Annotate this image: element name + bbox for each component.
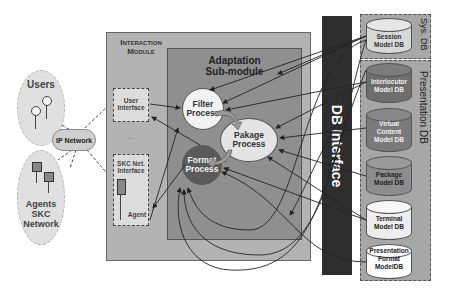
label-line: Model DB [366, 223, 412, 231]
label-line: ModelDB [366, 263, 412, 271]
skc-interface-box: SKC Net. Interface Agent [113, 154, 149, 226]
label-line: Model DB [366, 86, 412, 94]
ip-network-cloud: IP Network [52, 129, 96, 151]
label-line: Process [186, 109, 219, 118]
label-line: Virtual [366, 120, 412, 128]
agent-node-stem [48, 181, 49, 193]
cylinder-label: Presentation Format ModelDB [366, 247, 412, 271]
cylinder-label: Terminal Model DB [366, 215, 412, 231]
agent-node-icon [44, 172, 54, 182]
format-process: Format Process [182, 145, 222, 185]
label-line: Interface [114, 104, 148, 111]
agent-node-stem [36, 171, 37, 183]
user-interface-label: User Interface [114, 97, 148, 111]
title-line: Adaptation [168, 55, 301, 66]
label-line: Interlocutor [366, 78, 412, 86]
user-node-icon [42, 96, 52, 106]
title-line: Module [111, 48, 171, 57]
cylinder-label: Session Model DB [366, 33, 412, 49]
user-node-stem [35, 115, 36, 129]
user-node-stem [46, 105, 47, 119]
filter-process: Filter Process [182, 88, 224, 130]
label-line: Session [366, 33, 412, 41]
virtual-content-model-db: Virtual Content Model DB [366, 108, 412, 152]
cylinder-label: Interlocutor Model DB [366, 78, 412, 94]
users-label: Users [18, 79, 64, 90]
terminal-model-db: Terminal Model DB [366, 200, 412, 240]
label-line: User [114, 97, 148, 104]
agent-icon [117, 179, 126, 195]
presentation-db-label: Presentation DB [418, 71, 429, 144]
cylinder-label: Package Model DB [366, 171, 412, 187]
interlocutor-model-db: Interlocutor Model DB [366, 63, 412, 103]
db-interface-label: DB Interface [329, 104, 345, 186]
label-line: Model DB [366, 41, 412, 49]
adaptation-title: Adaptation Sub-module [168, 55, 301, 77]
label-line: Model DB [366, 136, 412, 144]
session-model-db: Session Model DB [366, 18, 412, 54]
agents-label: Agents SKC Network [18, 200, 64, 230]
package-process: Pakage Process [220, 118, 278, 162]
label-line: SKC Net. [114, 160, 148, 167]
package-model-db: Package Model DB [366, 156, 412, 196]
user-node-icon [31, 106, 41, 116]
label-line: Format [366, 255, 412, 263]
interaction-module-title: Interaction Module [111, 39, 171, 57]
ellipsis: ... [113, 133, 149, 140]
label-line: Interface [114, 167, 148, 174]
label-line: Content [366, 128, 412, 136]
ip-network-label: IP Network [56, 137, 92, 144]
presentation-format-model-db: Presentation Format ModelDB [366, 244, 412, 279]
db-interface: DB Interface [322, 16, 352, 275]
cylinder-top [366, 156, 412, 170]
agents-label-line: Network [18, 220, 64, 230]
label-line: Terminal [366, 215, 412, 223]
cylinder-top [366, 18, 412, 32]
sys-db-label: Sys. DB [419, 18, 429, 51]
cylinder-top [366, 200, 412, 214]
cylinder-top [366, 63, 412, 77]
user-interface-box: User Interface [113, 88, 149, 122]
title-line: Sub-module [168, 66, 301, 77]
label-line: Process [185, 165, 218, 174]
label-line: Process [232, 140, 265, 149]
label-line: Model DB [366, 179, 412, 187]
agent-node-icon [32, 162, 42, 172]
label-line: Package [366, 171, 412, 179]
label-line: Presentation [366, 247, 412, 255]
cylinder-label: Virtual Content Model DB [366, 120, 412, 144]
agent-label: Agent [120, 211, 154, 218]
skc-interface-label: SKC Net. Interface [114, 160, 148, 174]
